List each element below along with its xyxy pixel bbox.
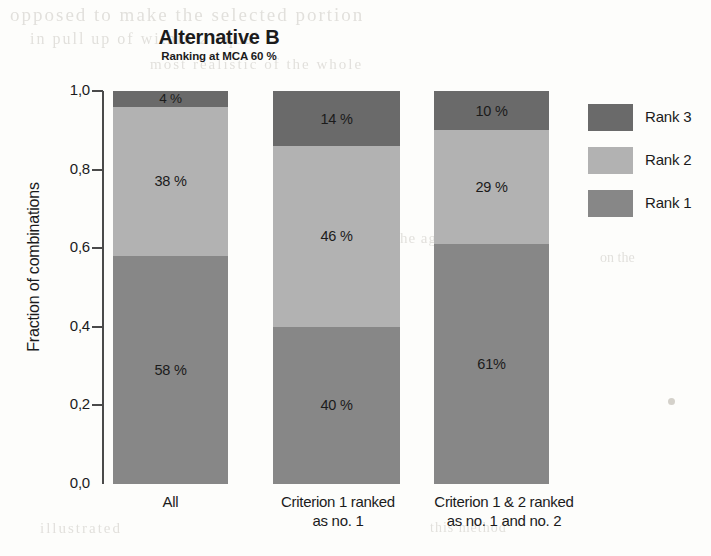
bar-segment-value-label: 40 % — [320, 397, 352, 413]
y-tick-mark — [92, 247, 103, 249]
bar-segment-value-label: 58 % — [154, 362, 186, 378]
y-tick-label: 0,0 — [30, 474, 90, 491]
bar-segment-value-label: 38 % — [154, 173, 186, 189]
bar-segment-rank-3: 14 % — [273, 91, 400, 146]
x-category-label: Criterion 1 rankedas no. 1 — [258, 492, 418, 530]
x-category-label-line2: as no. 1 and no. 2 — [420, 511, 588, 530]
x-category-label-line1: Criterion 1 ranked — [258, 492, 418, 511]
bar-column: 10 %29 %61% — [434, 91, 549, 484]
bar-segment-rank-2: 38 % — [113, 107, 228, 256]
x-category-label-line1: All — [113, 492, 228, 511]
bar-segment-value-label: 14 % — [320, 111, 352, 127]
chart-title: Alternative B — [114, 26, 324, 48]
bar-segment-rank-3: 10 % — [434, 91, 549, 130]
bar-segment-value-label: 10 % — [475, 103, 507, 119]
bar-column: 4 %38 %58 % — [113, 91, 228, 484]
bar-segment-rank-1: 61% — [434, 244, 549, 484]
legend-label: Rank 1 — [645, 194, 691, 211]
y-tick-mark — [92, 169, 103, 171]
y-axis-line — [102, 91, 104, 484]
bar-column: 14 %46 %40 % — [273, 91, 400, 484]
x-category-label-line1: Criterion 1 & 2 ranked — [420, 492, 588, 511]
bar-segment-value-label: 46 % — [320, 228, 352, 244]
y-tick-mark — [92, 90, 103, 92]
bar-segment-rank-3: 4 % — [113, 91, 228, 107]
y-tick-label: 0,2 — [30, 395, 90, 412]
x-category-label: All — [113, 492, 228, 511]
bar-segment-rank-2: 46 % — [273, 146, 400, 327]
x-category-label: Criterion 1 & 2 rankedas no. 1 and no. 2 — [420, 492, 588, 530]
bar-segment-value-label: 61% — [477, 356, 505, 372]
y-axis-title: Fraction of combinations — [25, 137, 43, 397]
bar-segment-rank-2: 29 % — [434, 130, 549, 244]
y-tick-mark — [92, 326, 103, 328]
legend-label: Rank 2 — [645, 151, 691, 168]
y-tick-mark — [92, 404, 103, 406]
legend-label: Rank 3 — [645, 108, 691, 125]
legend-swatch-icon — [588, 104, 633, 131]
bar-segment-rank-1: 58 % — [113, 256, 228, 484]
x-category-label-line2: as no. 1 — [258, 511, 418, 530]
legend-swatch-icon — [588, 147, 633, 174]
chart-subtitle: Ranking at MCA 60 % — [114, 50, 324, 62]
legend-swatch-icon — [588, 190, 633, 217]
bar-segment-rank-1: 40 % — [273, 327, 400, 484]
y-tick-label: 1,0 — [30, 81, 90, 98]
bar-segment-value-label: 29 % — [475, 179, 507, 195]
stacked-bar-chart: Alternative B Ranking at MCA 60 % 1,00,8… — [0, 0, 711, 556]
bar-segment-value-label: 4 % — [159, 91, 182, 106]
